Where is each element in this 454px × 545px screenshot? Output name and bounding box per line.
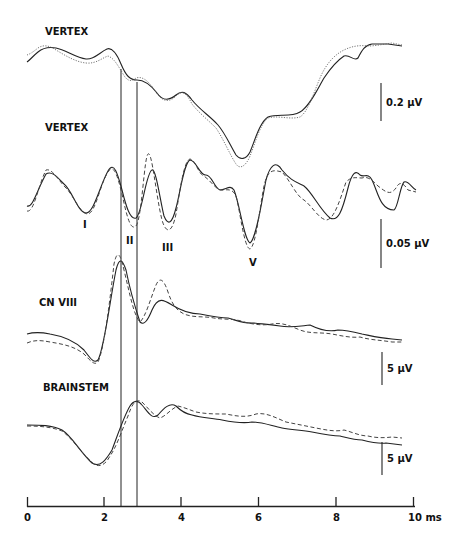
trace-vertex-broadband <box>27 43 402 167</box>
time-axis: 0 2 4 6 8 10 ms <box>24 497 442 523</box>
scale-bar-label: 5 µV <box>387 363 413 374</box>
trace-vertex-broadband-solid <box>27 44 402 158</box>
trace-vertex-filtered-solid <box>27 160 416 243</box>
trace-vertex-broadband-dotted <box>27 43 402 167</box>
tick-label-0: 0 <box>24 512 31 523</box>
trace-vertex-filtered <box>27 154 416 249</box>
trace-brainstem <box>27 401 402 466</box>
evoked-potential-figure: VERTEX VERTEX CN VIII BRAINSTEM I II III… <box>0 0 454 545</box>
tick-label-8: 8 <box>333 512 340 523</box>
trace-cn-viii <box>27 255 402 363</box>
tick-label-6: 6 <box>255 512 262 523</box>
peak-label-V: V <box>249 257 257 268</box>
tick-label-2: 2 <box>101 512 108 523</box>
trace-label-vertex-broadband: VERTEX <box>45 26 88 37</box>
tick-label-10-ms: 10 ms <box>408 512 442 523</box>
scale-bar-label: 5 µV <box>387 453 413 464</box>
scale-bar-label: 0.05 µV <box>386 238 430 249</box>
scale-bar-0-2uv: 0.2 µV <box>381 83 423 121</box>
scale-bar-label: 0.2 µV <box>386 97 423 108</box>
trace-cn-viii-solid <box>27 261 402 361</box>
tick-label-4: 4 <box>178 512 185 523</box>
scale-bar-5uv-brainstem: 5 µV <box>382 442 413 475</box>
scale-bar-0-05uv: 0.05 µV <box>381 219 430 268</box>
peak-label-I: I <box>83 219 87 230</box>
trace-label-brainstem: BRAINSTEM <box>43 382 109 393</box>
trace-label-cn-viii: CN VIII <box>39 297 77 308</box>
trace-cn-viii-dashed <box>27 255 402 363</box>
trace-brainstem-solid <box>27 401 402 464</box>
trace-brainstem-dashed <box>27 401 402 466</box>
peak-label-II: II <box>126 235 133 246</box>
peak-label-III: III <box>162 242 173 253</box>
trace-label-vertex-filtered: VERTEX <box>45 122 88 133</box>
trace-vertex-filtered-dashed <box>27 154 416 249</box>
scale-bar-5uv-cn-viii: 5 µV <box>382 352 413 385</box>
